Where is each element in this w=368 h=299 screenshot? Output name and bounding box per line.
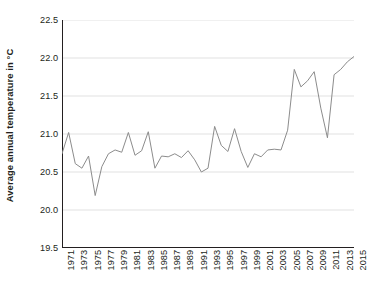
x-tick-label: 1993 [212,250,222,270]
data-series-line [62,56,354,195]
x-tick-label: 2003 [278,250,288,270]
x-tick-label: 1973 [79,250,89,270]
x-tick-label: 1995 [225,250,235,270]
x-tick-label: 1997 [239,250,249,270]
x-tick-label: 1977 [106,250,116,270]
x-tick-label: 1999 [252,250,262,270]
x-tick-label: 1981 [132,250,142,270]
y-axis-title: Average annual temperature in °C [0,0,20,250]
x-tick-label: 1987 [172,250,182,270]
plot-area [62,20,354,248]
x-tick-label: 1983 [146,250,156,270]
y-axis-tick-labels: 22.522.021.521.020.520.019.5 [22,0,58,260]
gridlines [62,20,354,248]
x-tick-label: 2011 [331,250,341,270]
y-tick-label: 22.0 [22,53,58,63]
y-tick-label: 19.5 [22,243,58,253]
y-tick-label: 21.5 [22,91,58,101]
x-tick-label: 1991 [199,250,209,270]
y-tick-label: 21.0 [22,129,58,139]
x-tick-label: 2007 [305,250,315,270]
y-tick-label: 20.5 [22,167,58,177]
y-axis-title-label: Average annual temperature in °C [5,48,16,202]
x-tick-label: 1975 [93,250,103,270]
x-tick-label: 2005 [292,250,302,270]
x-tick-label: 1989 [185,250,195,270]
x-tick-label: 1985 [159,250,169,270]
x-tick-label: 2013 [345,250,355,270]
x-tick-label: 2001 [265,250,275,270]
y-tick-label: 20.0 [22,205,58,215]
line-chart-svg [62,20,354,248]
x-axis-tick-labels: 1971197319751977197919811983198519871989… [62,250,354,299]
x-tick-label: 2015 [358,250,368,270]
x-tick-label: 1979 [119,250,129,270]
x-tick-label: 1971 [66,250,76,270]
x-tick-label: 2009 [318,250,328,270]
y-tick-label: 22.5 [22,15,58,25]
